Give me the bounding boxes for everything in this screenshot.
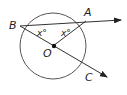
ray-ba: [20, 20, 121, 26]
label-b: B: [9, 19, 17, 32]
label-c: C: [85, 71, 93, 84]
angle-label-b: x°: [36, 28, 47, 38]
angle-label-a: x°: [60, 28, 71, 38]
circle-diagram: B A O C x° x°: [0, 0, 127, 95]
center-point-o: [52, 44, 56, 48]
label-o: O: [43, 47, 52, 60]
label-a: A: [83, 6, 92, 19]
